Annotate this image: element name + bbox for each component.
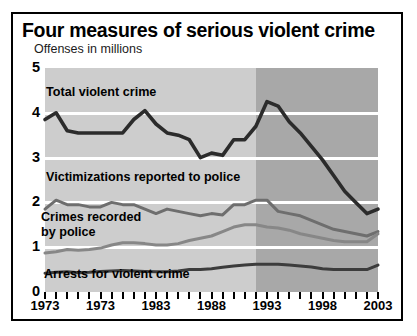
series-label-recorded-2: by police [41,225,96,240]
page-title: Four measures of serious violent crime [22,19,375,42]
x-tick-1993 [266,292,268,299]
x-tick-2003 [377,292,379,299]
x-tick-2001 [355,292,357,299]
x-tick-1978 [100,292,102,299]
x-tick-1982 [144,292,146,299]
x-tick-1974 [55,292,57,299]
y-tick-label-4: 4 [14,105,40,120]
x-tick-1995 [288,292,290,299]
x-tick-1986 [188,292,190,299]
x-tick-label-2: 1983 [142,298,171,313]
x-tick-1990 [233,292,235,299]
y-tick-label-1: 1 [14,239,40,254]
chart-figure: Four measures of serious violent crime O… [0,0,417,336]
x-tick-1983 [155,292,157,299]
x-tick-1992 [255,292,257,299]
y-tick-label-3: 3 [14,150,40,165]
x-tick-2002 [366,292,368,299]
y-tick-label-5: 5 [14,60,40,75]
x-tick-1994 [277,292,279,299]
x-tick-1973 [44,292,46,299]
series-label-recorded-1: Crimes recorded [41,210,141,225]
x-tick-1987 [199,292,201,299]
x-tick-label-4: 1993 [253,298,282,313]
x-tick-1985 [177,292,179,299]
x-tick-1977 [88,292,90,299]
series-line-total-violent-crime [45,102,378,214]
x-tick-label-6: 2003 [364,298,393,313]
x-tick-1984 [166,292,168,299]
x-tick-label-5: 1998 [308,298,337,313]
x-tick-1991 [244,292,246,299]
x-tick-1976 [77,292,79,299]
x-tick-1980 [122,292,124,299]
x-tick-1981 [133,292,135,299]
x-tick-1989 [222,292,224,299]
chart-subtitle: Offenses in millions [34,42,142,56]
series-label-arrests: Arrests for violent crime [44,267,190,282]
x-tick-label-3: 1988 [197,298,226,313]
x-tick-label-0: 1973 [31,298,60,313]
y-tick-label-2: 2 [14,194,40,209]
x-tick-1975 [66,292,68,299]
x-tick-label-1: 1973 [86,298,115,313]
x-tick-1999 [333,292,335,299]
series-label-total: Total violent crime [46,85,156,100]
x-tick-2000 [344,292,346,299]
x-tick-1988 [211,292,213,299]
x-tick-1997 [310,292,312,299]
series-label-victimizations: Victimizations reported to police [46,170,240,185]
x-tick-1979 [111,292,113,299]
x-tick-1998 [322,292,324,299]
y-tick-label-0: 0 [14,284,40,299]
x-tick-1996 [299,292,301,299]
